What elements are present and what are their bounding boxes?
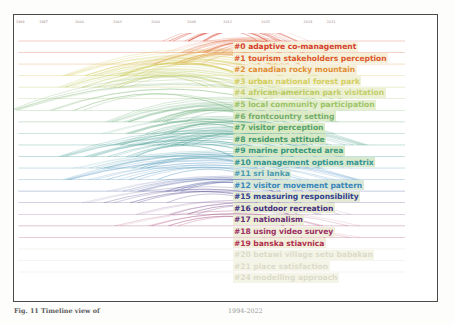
cluster-label-15: #15 measuring responsibility xyxy=(233,192,360,202)
cluster-legend-row-2[interactable]: #2 canadian rocky mountain xyxy=(233,64,438,76)
cluster-label-6: #6 frontcountry setting xyxy=(233,111,336,121)
cluster-legend-row-15[interactable]: #15 measuring responsibility xyxy=(233,191,438,203)
cluster-legend-row-19[interactable]: #19 banska stiavnica xyxy=(233,237,438,249)
cluster-legend-row-21[interactable]: #21 place satisfaction xyxy=(233,260,438,272)
cluster-label-21: #21 place satisfaction xyxy=(233,261,330,271)
cluster-label-7: #7 visitor perception xyxy=(233,123,325,133)
cluster-legend-row-8[interactable]: #8 residents attitude xyxy=(233,133,438,145)
cluster-legend-row-20[interactable]: #20 betawi village setu babakan xyxy=(233,249,438,261)
figure-caption-years: 1994-2022 xyxy=(228,307,263,315)
cluster-legend-row-6[interactable]: #6 frontcountry setting xyxy=(233,110,438,122)
cluster-label-0: #0 adaptive co-management xyxy=(233,42,358,52)
cluster-legend-row-0[interactable]: #0 adaptive co-management xyxy=(233,41,438,53)
cluster-label-11: #11 sri lanka xyxy=(233,169,291,179)
cluster-label-9: #9 marine protected area xyxy=(233,146,345,156)
axis-tick-2018: 2018 xyxy=(304,20,313,24)
axis-tick-2015: 2015 xyxy=(261,20,270,24)
cluster-legend-row-24[interactable]: #24 modelling approach xyxy=(233,272,438,284)
cluster-label-3: #3 urban national forest park xyxy=(233,76,361,86)
cluster-track-0 xyxy=(18,33,405,41)
cluster-label-17: #17 nationalism xyxy=(233,215,304,225)
axis-tick-2006: 2006 xyxy=(151,20,160,24)
cluster-legend-row-3[interactable]: #3 urban national forest park xyxy=(233,76,438,88)
axis-tick-1997: 1997 xyxy=(39,20,48,24)
cluster-legend-row-9[interactable]: #9 marine protected area xyxy=(233,145,438,157)
cluster-legend-row-4[interactable]: #4 african-american park visitation xyxy=(233,87,438,99)
cluster-label-10: #10 management options matrix xyxy=(233,157,375,167)
cluster-legend-row-17[interactable]: #17 nationalism xyxy=(233,214,438,226)
cluster-legend-row-16[interactable]: #16 outdoor recreation xyxy=(233,203,438,215)
cluster-legend-row-1[interactable]: #1 tourism stakeholders perception xyxy=(233,53,438,65)
cluster-label-2: #2 canadian rocky mountain xyxy=(233,65,357,75)
cluster-label-4: #4 african-american park visitation xyxy=(233,88,386,98)
cluster-label-12: #12 visitor movement pattern xyxy=(233,180,364,190)
axis-tick-2021: 2021 xyxy=(327,20,336,24)
cluster-label-24: #24 modelling approach xyxy=(233,273,339,283)
figure-caption-text: Fig. 11 Timeline view of xyxy=(14,307,100,315)
axis-tick-2003: 2003 xyxy=(113,20,122,24)
axis-tick-2012: 2012 xyxy=(223,20,232,24)
cluster-legend: #0 adaptive co-management#1 tourism stak… xyxy=(233,41,438,283)
cluster-legend-row-12[interactable]: #12 visitor movement pattern xyxy=(233,180,438,192)
axis-tick-1994: 1994 xyxy=(16,20,25,24)
axis-tick-2009: 2009 xyxy=(187,20,196,24)
cluster-label-1: #1 tourism stakeholders perception xyxy=(233,53,388,63)
cluster-label-18: #18 using video survey xyxy=(233,227,335,237)
cluster-legend-row-7[interactable]: #7 visitor perception xyxy=(233,122,438,134)
figure-page: 1994199720002003200620092012201520182021… xyxy=(0,0,454,324)
cluster-legend-row-10[interactable]: #10 management options matrix xyxy=(233,156,438,168)
cluster-label-16: #16 outdoor recreation xyxy=(233,203,335,213)
cluster-label-20: #20 betawi village setu babakan xyxy=(233,250,374,260)
cluster-legend-row-18[interactable]: #18 using video survey xyxy=(233,226,438,238)
timeline-figure-frame: 1994199720002003200620092012201520182021… xyxy=(13,14,438,302)
cluster-label-19: #19 banska stiavnica xyxy=(233,238,326,248)
cluster-legend-row-5[interactable]: #5 local community participation xyxy=(233,99,438,111)
timeline-year-axis: 1994199720002003200620092012201520182021 xyxy=(14,15,437,33)
cluster-label-5: #5 local community participation xyxy=(233,100,376,110)
axis-tick-2000: 2000 xyxy=(75,20,84,24)
cluster-legend-row-11[interactable]: #11 sri lanka xyxy=(233,168,438,180)
cluster-label-8: #8 residents attitude xyxy=(233,134,326,144)
